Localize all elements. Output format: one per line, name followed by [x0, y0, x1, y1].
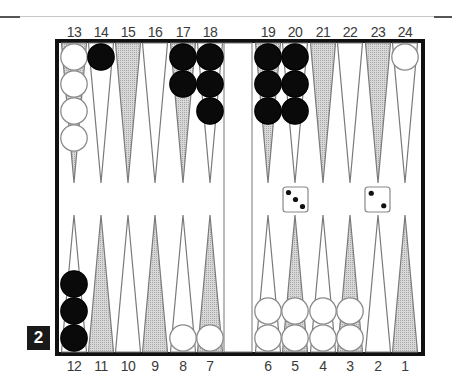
backgammon-board[interactable]: [0, 0, 452, 392]
black-checker-point-20[interactable]: [282, 44, 308, 70]
black-checker-point-17[interactable]: [170, 44, 196, 70]
die-pip: [300, 204, 305, 209]
black-checker-point-18[interactable]: [197, 44, 223, 70]
white-checker-point-3[interactable]: [337, 325, 363, 351]
white-checker-point-5[interactable]: [282, 325, 308, 351]
die-pip: [286, 190, 291, 195]
black-checker-point-19[interactable]: [255, 98, 281, 124]
white-checker-point-13[interactable]: [61, 98, 87, 124]
black-checker-point-19[interactable]: [255, 71, 281, 97]
white-checker-point-6[interactable]: [255, 325, 281, 351]
bar[interactable]: [224, 43, 252, 352]
black-checker-point-17[interactable]: [170, 71, 196, 97]
black-checker-point-12[interactable]: [61, 325, 87, 351]
black-checker-point-18[interactable]: [197, 98, 223, 124]
doubling-cube[interactable]: 2: [27, 326, 50, 350]
white-checker-point-24[interactable]: [392, 44, 418, 70]
black-checker-point-20[interactable]: [282, 98, 308, 124]
white-checker-point-3[interactable]: [337, 298, 363, 324]
black-checker-point-14[interactable]: [88, 44, 114, 70]
white-checker-point-4[interactable]: [310, 325, 336, 351]
white-checker-point-13[interactable]: [61, 125, 87, 151]
die-pip: [381, 203, 386, 208]
white-checker-point-5[interactable]: [282, 298, 308, 324]
white-checker-point-8[interactable]: [170, 325, 196, 351]
white-checker-point-6[interactable]: [255, 298, 281, 324]
white-checker-point-4[interactable]: [310, 298, 336, 324]
black-checker-point-12[interactable]: [61, 271, 87, 297]
die-2[interactable]: [365, 187, 390, 212]
die-pip: [369, 191, 374, 196]
white-checker-point-7[interactable]: [197, 325, 223, 351]
die-pip: [293, 197, 298, 202]
black-checker-point-19[interactable]: [255, 44, 281, 70]
black-checker-point-18[interactable]: [197, 71, 223, 97]
black-checker-point-12[interactable]: [61, 298, 87, 324]
white-checker-point-13[interactable]: [61, 44, 87, 70]
black-checker-point-20[interactable]: [282, 71, 308, 97]
white-checker-point-13[interactable]: [61, 71, 87, 97]
